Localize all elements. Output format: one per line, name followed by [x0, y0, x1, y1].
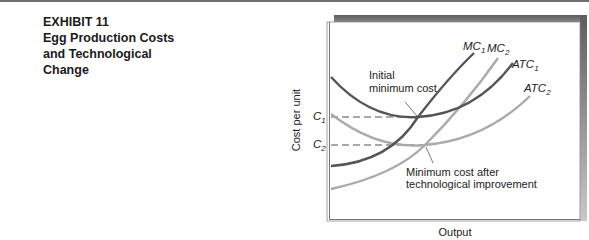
cost-chart: Initial minimum cost Minimum cost after …: [0, 0, 589, 240]
initial-min-label-2: minimum cost: [369, 82, 437, 94]
after-min-label-1: Minimum cost after: [406, 166, 499, 178]
chart-frame: [327, 22, 580, 221]
y-axis-title: Cost per unit: [290, 89, 302, 151]
initial-min-label-1: Initial: [369, 69, 395, 81]
after-min-label-2: technological improvement: [406, 178, 537, 190]
c1-tick-label: C1: [313, 110, 326, 125]
x-axis-title: Output: [438, 226, 471, 238]
c2-tick-label: C2: [313, 138, 326, 153]
